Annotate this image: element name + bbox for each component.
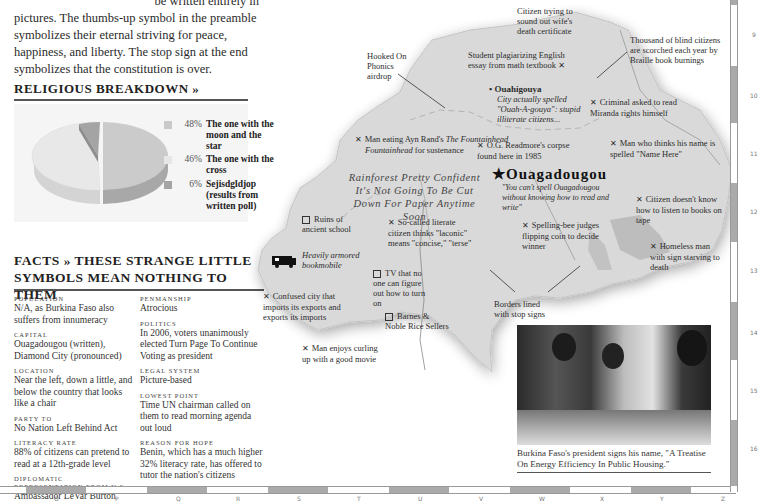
square-marker-icon [373, 270, 381, 278]
label-text: Barnes & Noble Rice Sellers [385, 311, 449, 331]
legend-swatch [164, 121, 172, 129]
x-marker-icon: ✕ [610, 139, 617, 148]
column-label: V [479, 495, 483, 502]
column-label: P [115, 495, 119, 502]
fact-population: PopulationN/A, as Burkina Faso also suff… [14, 295, 134, 326]
label-text: Citizen trying to sound out wife's death… [517, 6, 587, 36]
fact-capital: CapitalOuagadougou (written), Diamond Ci… [14, 331, 134, 362]
person-silhouette [677, 330, 707, 366]
label-borders-stop-signs: Borders lined with stop signs [494, 299, 554, 319]
x-marker-icon: ✕ [636, 195, 643, 204]
label-text: O.G. Readmore's corpse found here in 198… [477, 140, 569, 161]
label-ruins-school: Ruins of ancient school [302, 214, 362, 234]
label-homeless-man: ✕Homeless man with sign starving to deat… [650, 241, 725, 272]
row-label: 9 [752, 31, 756, 38]
square-marker-icon [385, 313, 393, 321]
column-label: T [357, 495, 361, 502]
religion-pie-chart: 48% The one with the moon and the star 4… [14, 104, 248, 222]
label-text: Fountainhead [365, 145, 413, 155]
x-marker-icon: ✕ [650, 242, 657, 251]
x-marker-icon: ✕ [590, 98, 597, 107]
label-text: Citizen doesn't know how to listen to bo… [636, 194, 722, 225]
table-surface [517, 410, 711, 445]
facts-column-left: PopulationN/A, as Burkina Faso also suff… [14, 290, 134, 503]
intro-paragraph: be written entirely in pictures. The thu… [14, 0, 259, 78]
row-label: 15 [750, 387, 758, 394]
intro-first-line: be written entirely in [14, 0, 259, 10]
x-marker-icon: ✕ [477, 141, 484, 150]
fact-label: Literacy rate [14, 439, 134, 447]
x-marker-icon: ✕ [522, 221, 529, 230]
label-blind-citizens: Thousand of blind citizens are scorched … [630, 35, 725, 65]
label-readmore-corpse: ✕O.G. Readmore's corpse found here in 19… [477, 140, 572, 161]
legend-swatch [164, 181, 172, 189]
label-tv: TV that no one can figure out how to tur… [373, 268, 433, 308]
label-curling-movie: ✕Man enjoys curling up with a good movie [302, 343, 382, 364]
label-text: Man who thinks his name is spelled "Name… [610, 138, 715, 159]
label-text: for sustenance [413, 145, 464, 155]
religious-breakdown-heading: RELIGIOUS BREAKDOWN » [14, 81, 199, 97]
label-criminal-miranda: ✕Criminal asked to read Miranda rights h… [590, 97, 685, 118]
column-label: Z [721, 495, 725, 502]
column-label: W [539, 495, 545, 502]
label-spelling-bee: ✕Spelling-bee judges flipping coin to de… [522, 220, 607, 251]
label-confused-city: ✕Confused city that imports its exports … [263, 291, 343, 322]
legend-percent: 46% [176, 154, 202, 165]
column-label: Q [176, 495, 181, 502]
fact-value: Near the left, down a little, and below … [14, 375, 134, 410]
column-label: X [600, 495, 604, 502]
label-laconic: ✕So-called literate citizen thinks "laco… [388, 217, 478, 248]
president-photo [517, 325, 711, 445]
label-barnes-noble: Barnes & Noble Rice Sellers [385, 311, 450, 331]
x-marker-icon: ✕ [388, 218, 395, 227]
square-marker-icon [302, 216, 310, 224]
label-rainforest: Rainforest Pretty Confident It's Not Goi… [342, 171, 487, 223]
photo-caption: Burkina Faso's president signs his name,… [517, 448, 711, 470]
section-divider [14, 99, 248, 101]
label-hooked-on-phonics: Hooked On Phonics airdrop [367, 51, 417, 81]
x-marker-icon: ✕ [302, 344, 309, 353]
label-name-here: ✕Man who thinks his name is spelled "Nam… [610, 138, 720, 159]
legend-percent: 48% [176, 119, 202, 130]
horizontal-grid-ruler [0, 486, 736, 494]
column-label: S [297, 495, 301, 502]
label-bookmobile: Heavily armored bookmobile [302, 250, 362, 270]
fact-label: Location [14, 367, 134, 375]
x-marker-icon: ✕ [355, 135, 362, 144]
city-name: Ouahigouya [494, 84, 541, 94]
label-text: Homeless man with sign starving to death [650, 241, 720, 272]
fact-label: Party to [14, 415, 134, 423]
person-silhouette [552, 333, 576, 361]
column-label: U [418, 495, 422, 502]
label-ouahigouya: • Ouahigouya City actually spelled "Ouah… [489, 84, 587, 124]
caption-rule [517, 472, 711, 473]
label-wife-certificate: Citizen trying to sound out wife's death… [517, 6, 587, 36]
x-marker-icon: ✕ [263, 292, 270, 301]
row-label: 13 [750, 267, 758, 274]
label-text: Criminal asked to read Miranda rights hi… [590, 97, 677, 118]
row-label: 16 [750, 445, 758, 452]
label-text: Man enjoys curling up with a good movie [302, 343, 378, 364]
column-label: O [54, 495, 59, 502]
fact-value: Ouagadougou (written), Diamond City (pro… [14, 339, 134, 362]
fact-value: No Nation Left Behind Act [14, 423, 134, 435]
label-text: Spelling-bee judges flipping coin to dec… [522, 220, 599, 251]
fact-value: 88% of citizens can pretend to read at a… [14, 447, 134, 470]
capital-quote: "You can't spell Ouagadougou without kno… [502, 183, 617, 213]
column-label: R [236, 495, 240, 502]
row-label: 10 [750, 92, 758, 99]
label-student-plagiarizing: Student plagiarizing English essay from … [468, 50, 578, 71]
column-label: Y [660, 495, 664, 502]
fact-label: Population [14, 295, 134, 303]
label-text: So-called literate citizen thinks "lacon… [388, 217, 472, 248]
label-text: Student plagiarizing English essay from … [468, 50, 565, 70]
label-text: Man eating Ayn Rand's [365, 134, 446, 144]
label-capital-ouagadougou: ★Ouagadougou "You can't spell Ouagadougo… [492, 166, 617, 213]
legend-swatch [164, 156, 172, 164]
x-marker-icon: ✕ [558, 61, 565, 70]
capital-name: Ouagadougou [506, 166, 607, 182]
intro-body: pictures. The thumbs-up symbol in the pr… [14, 11, 256, 76]
label-text: Confused city that imports its exports a… [263, 291, 341, 322]
city-dot-icon: • [489, 84, 492, 94]
city-note: City actually spelled "Ouah-A-gouya": st… [497, 94, 587, 124]
